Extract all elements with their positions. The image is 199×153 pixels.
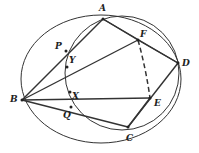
point-b (21, 99, 24, 102)
point-e (149, 97, 152, 100)
label-a: A (99, 4, 106, 13)
point-c (127, 126, 130, 129)
point-p (65, 50, 68, 53)
label-b: B (10, 95, 18, 104)
point-q (70, 106, 73, 109)
segment-ec (128, 98, 150, 127)
label-f: F (140, 30, 146, 39)
label-c: C (126, 134, 133, 143)
point-a (102, 18, 105, 21)
segment-bf (22, 40, 138, 100)
circle-ABCD (21, 15, 181, 143)
diagram-canvas (0, 0, 199, 153)
label-d: D (182, 59, 190, 68)
point-y (66, 66, 69, 69)
segment-ad (103, 19, 178, 63)
geometry-diagram: AFDECBPYXQ (0, 0, 199, 153)
label-x: X (72, 92, 79, 101)
segment-ba (22, 19, 103, 100)
segment-cb (22, 100, 128, 127)
circle-PAQD (65, 16, 179, 130)
label-q: Q (63, 111, 71, 120)
label-e: E (154, 99, 161, 108)
label-y: Y (69, 56, 75, 65)
label-p: P (55, 42, 62, 51)
point-d (177, 62, 180, 65)
segment-be (22, 98, 150, 100)
segment-fe (138, 40, 150, 98)
